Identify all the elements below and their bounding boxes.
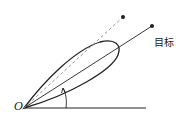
target-line-of-sight [24, 26, 152, 108]
diagram-canvas [0, 0, 176, 121]
beam-lobe [24, 41, 119, 108]
target-label: 目标 [154, 34, 174, 49]
antenna-beam-diagram: O 目标 [0, 0, 176, 121]
arrow-head-icon [62, 88, 66, 93]
origin-label: O [14, 100, 23, 113]
beam-axis-dashed-line [24, 17, 123, 108]
target-point [150, 24, 154, 28]
beam-axis-point [121, 15, 125, 19]
